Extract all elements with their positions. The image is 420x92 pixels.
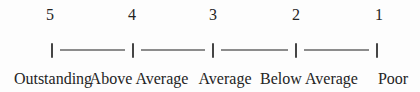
scale-label-average: Average	[199, 69, 252, 88]
scale-number-4: 4	[128, 5, 136, 24]
scale-label-above-average: Above Average	[90, 69, 189, 88]
scale-line-segment	[141, 49, 205, 51]
graphic-rating-scale: 5 4 3 2 1 Outstanding Above Average Aver…	[0, 0, 420, 92]
tick-mark	[212, 43, 214, 58]
scale-number-3: 3	[209, 5, 217, 24]
tick-mark	[51, 43, 53, 58]
tick-mark	[132, 43, 134, 58]
scale-number-1: 1	[375, 5, 383, 24]
tick-mark	[295, 43, 297, 58]
scale-label-below-average: Below Average	[260, 69, 358, 88]
scale-label-poor: Poor	[378, 69, 408, 88]
scale-line-segment	[221, 49, 288, 51]
scale-line-segment	[304, 49, 369, 51]
tick-mark	[376, 43, 378, 58]
scale-number-5: 5	[46, 5, 54, 24]
scale-number-2: 2	[292, 5, 300, 24]
scale-line-segment	[60, 49, 125, 51]
scale-label-outstanding: Outstanding	[14, 69, 92, 88]
